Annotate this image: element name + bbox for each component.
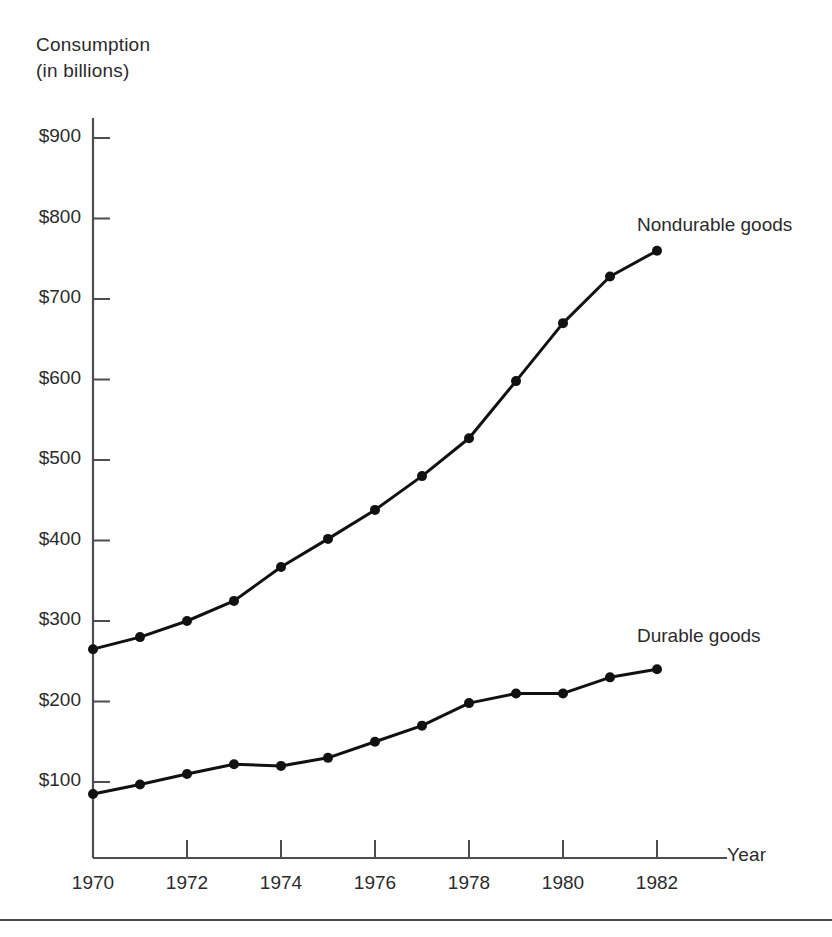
bottom-divider-rule: [0, 919, 832, 921]
data-point-marker: [182, 616, 192, 626]
data-point-marker: [276, 761, 286, 771]
data-point-marker: [417, 721, 427, 731]
chart-plot-area: [0, 0, 832, 937]
data-point-marker: [370, 505, 380, 515]
data-point-marker: [464, 433, 474, 443]
data-point-marker: [652, 246, 662, 256]
data-point-marker: [558, 318, 568, 328]
data-point-marker: [323, 753, 333, 763]
chart-axes: [93, 118, 727, 858]
data-point-marker: [88, 644, 98, 654]
data-point-marker: [229, 596, 239, 606]
data-point-marker: [464, 698, 474, 708]
data-point-marker: [605, 271, 615, 281]
data-point-marker: [370, 737, 380, 747]
data-point-marker: [88, 789, 98, 799]
data-point-marker: [323, 534, 333, 544]
data-point-marker: [229, 759, 239, 769]
data-point-marker: [558, 688, 568, 698]
data-point-marker: [417, 471, 427, 481]
data-point-marker: [276, 562, 286, 572]
data-point-marker: [511, 688, 521, 698]
data-point-marker: [135, 632, 145, 642]
data-point-marker: [182, 769, 192, 779]
data-point-marker: [605, 672, 615, 682]
series-line-durable-goods: [93, 669, 657, 794]
data-point-marker: [511, 376, 521, 386]
data-point-marker: [652, 664, 662, 674]
data-point-marker: [135, 779, 145, 789]
chart-series: [88, 246, 662, 799]
chart-figure: Consumption(in billions) Year Nondurable…: [0, 0, 832, 937]
series-line-nondurable-goods: [93, 251, 657, 649]
